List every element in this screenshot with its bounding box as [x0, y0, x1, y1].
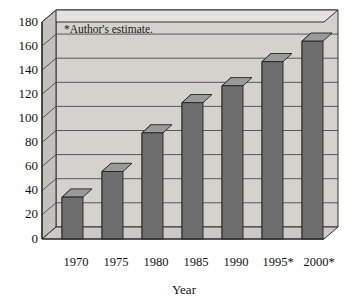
y-tick-label-120: 120: [19, 86, 39, 101]
x-tick-label-1990: 1990: [224, 255, 249, 269]
x-tick-label-1985: 1985: [184, 255, 209, 269]
x-tick-label-1970: 1970: [64, 255, 89, 269]
x-tick-label-1975: 1975: [104, 255, 129, 269]
y-tick-label-180: 180: [19, 14, 39, 29]
bar-1985-front: [182, 103, 203, 239]
bar-chart: *Author's estimate.: [0, 0, 352, 308]
bar-1980-front: [142, 133, 163, 239]
chart-canvas: *Author's estimate.: [0, 0, 352, 308]
x-tick-label-1995: 1995*: [262, 255, 293, 269]
bar-2000-front: [302, 41, 323, 239]
y-tick-label-0: 0: [32, 231, 39, 246]
y-tick-label-60: 60: [25, 158, 38, 173]
bar-1975-front: [102, 172, 123, 240]
y-axis-labels: 180 160 140 120 100 80 60 40 20 0: [19, 14, 39, 246]
x-axis-labels: 1970 1975 1980 1985 1990 1995* 2000*: [64, 255, 335, 269]
y-tick-label-100: 100: [19, 110, 39, 125]
bar-1990-front: [222, 86, 243, 239]
bar-1970-front: [62, 197, 83, 239]
y-tick-label-160: 160: [19, 38, 39, 53]
y-tick-label-40: 40: [25, 182, 38, 197]
author-estimate-note: *Author's estimate.: [64, 23, 153, 35]
x-axis-title: Year: [172, 282, 197, 297]
x-tick-label-2000: 2000*: [303, 255, 334, 269]
y-tick-label-80: 80: [25, 134, 38, 149]
y-tick-label-20: 20: [25, 206, 38, 221]
y-tick-label-140: 140: [19, 62, 39, 77]
x-tick-label-1980: 1980: [144, 255, 169, 269]
bar-1995-front: [262, 62, 283, 239]
plot-top-face: [42, 10, 338, 22]
